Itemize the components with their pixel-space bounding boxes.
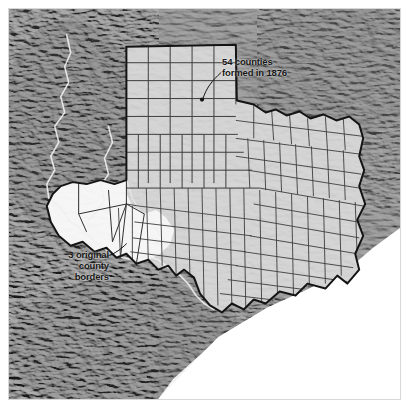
map-canvas — [9, 9, 400, 399]
texas-county-map-figure: 54 counties formed in 1876 3 original co… — [0, 0, 409, 416]
leader-dot-counties-1876 — [200, 97, 204, 101]
map-frame: 54 counties formed in 1876 3 original co… — [8, 8, 401, 400]
